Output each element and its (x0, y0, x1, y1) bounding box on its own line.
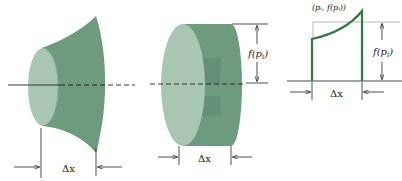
function-curve (312, 11, 362, 81)
dx-label-2: Δx (198, 153, 211, 164)
riemann-volume-diagram: Δx f(pi) Δx f(pi) (pᵢ, f(pᵢ)) Δx (0, 0, 402, 181)
dx-label-1: Δx (62, 163, 75, 174)
point-label: (pᵢ, f(pᵢ)) (312, 3, 346, 12)
radius-label: f(pi) (247, 48, 268, 61)
frustum-solid (28, 16, 105, 153)
disk-solid (161, 24, 242, 146)
dx-label-3: Δx (330, 88, 343, 99)
strip-graph: f(pi) (pᵢ, f(pᵢ)) Δx (287, 3, 402, 100)
height-label: f(pi) (372, 46, 393, 59)
